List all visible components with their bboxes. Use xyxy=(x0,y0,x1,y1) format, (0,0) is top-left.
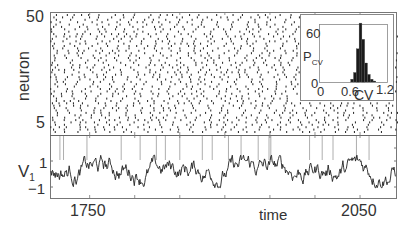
y-tick-50: 50 xyxy=(26,9,44,25)
inset-ytick-60: 60 xyxy=(306,27,320,40)
inset-p-symbol: P xyxy=(303,49,312,64)
y-tick-v-neg: −1 xyxy=(28,181,45,196)
inset-p-subscript: CV xyxy=(312,58,323,67)
inset-xtick-1-2: 1.2 xyxy=(376,83,394,96)
inset-xlabel-cv: CV xyxy=(354,88,373,102)
v1-symbol: V xyxy=(18,162,29,181)
inset-ylabel-pcv: PCV xyxy=(303,50,323,67)
x-tick-2050: 2050 xyxy=(341,203,377,219)
voltage-trace xyxy=(51,155,395,188)
spike-lines xyxy=(60,136,369,160)
x-tick-1750: 1750 xyxy=(70,203,106,219)
y-axis-label-neuron: neuron xyxy=(16,46,32,106)
inset-xtick-0: 0 xyxy=(317,85,324,98)
y-tick-5: 5 xyxy=(36,115,45,131)
y-tick-v-pos: 1 xyxy=(39,155,47,170)
figure-canvas xyxy=(0,0,411,225)
x-axis-label-time: time xyxy=(259,207,287,222)
